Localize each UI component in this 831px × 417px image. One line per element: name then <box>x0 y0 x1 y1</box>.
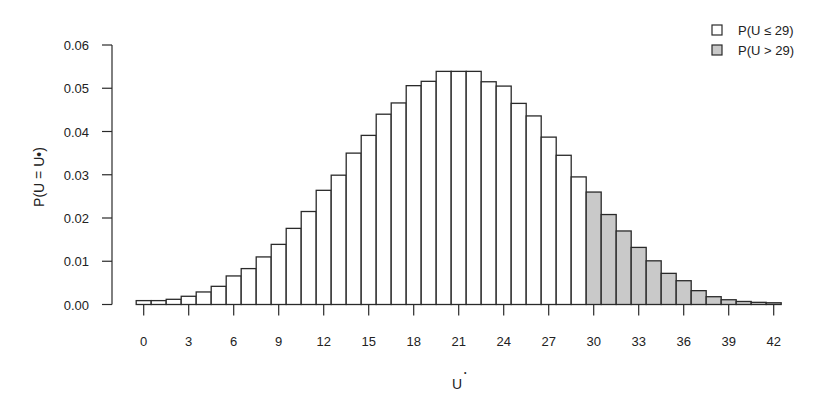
x-tick-label: 36 <box>676 334 690 349</box>
legend-label-low: P(U ≤ 29) <box>738 23 794 38</box>
bar-6 <box>226 276 241 305</box>
bar-9 <box>271 244 286 304</box>
bar-15 <box>361 135 376 304</box>
y-tick-label: 0.05 <box>64 81 89 96</box>
y-axis-title: P(U = U•) <box>31 147 47 207</box>
bar-21 <box>451 71 466 304</box>
bar-24 <box>496 86 511 304</box>
legend: P(U ≤ 29) P(U > 29) <box>712 23 794 58</box>
bars <box>136 71 781 304</box>
bar-31 <box>601 215 616 305</box>
bar-30 <box>586 192 601 304</box>
legend-swatch-high <box>712 45 722 55</box>
y-tick-label: 0.03 <box>64 168 89 183</box>
x-tick-label: 27 <box>541 334 555 349</box>
x-tick-label: 6 <box>230 334 237 349</box>
x-axis-title-superscript: • <box>464 369 467 376</box>
bar-33 <box>631 247 646 304</box>
bar-29 <box>571 177 586 305</box>
bar-11 <box>301 212 316 305</box>
bar-7 <box>241 269 256 305</box>
y-axis: 0.000.010.020.030.040.050.06 <box>64 38 112 313</box>
x-tick-label: 42 <box>766 334 780 349</box>
bar-41 <box>751 302 766 304</box>
bar-17 <box>391 103 406 305</box>
x-tick-label: 39 <box>721 334 735 349</box>
bar-3 <box>181 296 196 304</box>
x-tick-label: 18 <box>406 334 420 349</box>
bar-35 <box>661 273 676 304</box>
bar-25 <box>511 103 526 304</box>
bar-2 <box>166 299 181 304</box>
bar-16 <box>376 114 391 304</box>
y-tick-label: 0.01 <box>64 254 89 269</box>
bar-32 <box>616 231 631 305</box>
bar-23 <box>481 82 496 305</box>
x-tick-label: 24 <box>496 334 510 349</box>
x-tick-label: 21 <box>451 334 465 349</box>
bar-26 <box>526 116 541 305</box>
x-tick-label: 33 <box>631 334 645 349</box>
bar-27 <box>541 137 556 304</box>
bar-8 <box>256 257 271 305</box>
legend-label-high: P(U > 29) <box>738 43 794 58</box>
bar-4 <box>196 292 211 305</box>
bar-34 <box>646 261 661 305</box>
bar-12 <box>316 190 331 304</box>
y-tick-label: 0.00 <box>64 298 89 313</box>
bar-1 <box>151 301 166 305</box>
y-tick-label: 0.04 <box>64 125 89 140</box>
y-tick-label: 0.02 <box>64 211 89 226</box>
bar-22 <box>466 71 481 304</box>
x-axis-title: U • <box>452 369 467 392</box>
bar-13 <box>331 175 346 304</box>
y-tick-label: 0.06 <box>64 38 89 53</box>
x-axis: 03691215182124273033363942 <box>140 305 781 350</box>
bar-38 <box>706 297 721 305</box>
bar-18 <box>406 86 421 305</box>
x-tick-label: 12 <box>316 334 330 349</box>
x-tick-label: 15 <box>361 334 375 349</box>
bar-5 <box>211 286 226 304</box>
x-tick-label: 3 <box>185 334 192 349</box>
bar-10 <box>286 228 301 304</box>
legend-swatch-low <box>712 25 722 35</box>
chart: 0.000.010.020.030.040.050.06 03691215182… <box>0 0 831 417</box>
x-tick-label: 9 <box>275 334 282 349</box>
x-axis-title-main: U <box>452 376 462 392</box>
bar-42 <box>766 303 781 305</box>
bar-39 <box>721 300 736 305</box>
bar-28 <box>556 155 571 304</box>
x-tick-label: 30 <box>586 334 600 349</box>
bar-0 <box>136 301 151 305</box>
bar-36 <box>676 281 691 305</box>
bar-40 <box>736 301 751 304</box>
bar-20 <box>436 71 451 304</box>
x-tick-label: 0 <box>140 334 147 349</box>
bar-37 <box>691 291 706 305</box>
bar-19 <box>421 81 436 304</box>
bar-14 <box>346 153 361 304</box>
